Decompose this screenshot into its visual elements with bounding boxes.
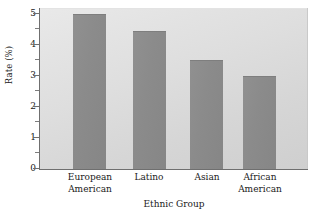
plot-area bbox=[40, 8, 308, 169]
x-tick-line1: Asian bbox=[194, 172, 219, 182]
y-tick-minor bbox=[35, 152, 39, 153]
plot-top-edge bbox=[40, 8, 308, 9]
y-tick-major bbox=[33, 44, 39, 45]
x-tick-line2: American bbox=[50, 184, 130, 196]
y-tick-major bbox=[33, 75, 39, 76]
x-tick-line1: European bbox=[68, 172, 112, 182]
bar-african-american[interactable] bbox=[243, 76, 276, 169]
x-tick-label-african-american: African American bbox=[220, 172, 300, 195]
x-axis-tick-labels: European American Latino Asian African A… bbox=[40, 172, 308, 200]
y-tick-minor bbox=[35, 59, 39, 60]
x-tick-line2: American bbox=[220, 184, 300, 196]
y-axis-tick-labels: 5 4 3 2 1 0 bbox=[12, 0, 36, 217]
bar-european-american[interactable] bbox=[73, 14, 106, 169]
x-tick-line1: African bbox=[243, 172, 276, 182]
bar-asian[interactable] bbox=[190, 60, 223, 170]
bar-latino[interactable] bbox=[133, 31, 166, 170]
y-tick-minor bbox=[35, 121, 39, 122]
y-tick-minor bbox=[35, 90, 39, 91]
x-axis-label: Ethnic Group bbox=[40, 199, 308, 209]
x-tick-line1: Latino bbox=[134, 172, 163, 182]
y-tick-minor bbox=[35, 28, 39, 29]
bar-chart-figure: Rate (%) 5 4 3 2 1 0 European American L… bbox=[0, 0, 317, 217]
y-tick-major bbox=[33, 137, 39, 138]
y-tick-major bbox=[33, 106, 39, 107]
y-tick-major bbox=[33, 13, 39, 14]
x-axis-spine bbox=[39, 169, 308, 170]
plot-right-edge bbox=[307, 8, 308, 169]
